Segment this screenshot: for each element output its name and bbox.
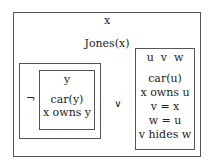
disjunction-symbol: ∨ bbox=[111, 97, 125, 110]
inner-condition: x owns y bbox=[39, 106, 95, 119]
right-condition: x owns u bbox=[135, 86, 195, 99]
right-condition: v hides w bbox=[135, 128, 195, 141]
inner-condition: car(y) bbox=[39, 93, 95, 106]
right-variables: u v w bbox=[135, 51, 195, 64]
outer-variables: x bbox=[13, 14, 201, 27]
right-condition: w = u bbox=[135, 114, 195, 127]
inner-variables: y bbox=[39, 73, 95, 86]
right-condition: v = x bbox=[135, 100, 195, 113]
negation-symbol: ¬ bbox=[26, 92, 35, 105]
right-condition: car(u) bbox=[135, 72, 195, 85]
